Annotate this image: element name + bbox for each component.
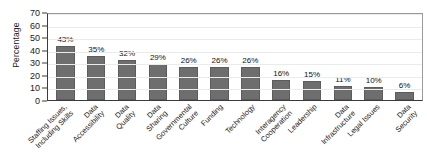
- y-axis-tickmark-20: [42, 75, 47, 76]
- bar-value-label: 10%: [366, 77, 382, 85]
- gridline-20: [48, 77, 422, 78]
- x-axis-label-line1: Funding: [199, 102, 225, 128]
- bar-value-label: 35%: [88, 46, 104, 54]
- bar-chart: Percentage 706050403020100 43%35%32%29%2…: [0, 0, 427, 166]
- bar[interactable]: [334, 86, 352, 100]
- y-axis-tick-60: 60: [30, 21, 40, 30]
- y-axis-tickmark-10: [42, 88, 47, 89]
- x-axis-category-label: Leadership: [287, 103, 319, 135]
- gridline-70: [48, 14, 422, 15]
- bar[interactable]: [303, 81, 321, 100]
- x-axis-category-label: Staffing Issues,Including Skills: [26, 103, 74, 151]
- bar[interactable]: [210, 67, 228, 100]
- bar[interactable]: [87, 56, 105, 100]
- gridline-60: [48, 27, 422, 28]
- y-axis-tick-40: 40: [30, 46, 40, 55]
- gridline-30: [48, 64, 422, 65]
- y-axis-tickmark-60: [42, 25, 47, 26]
- plot-area: 43%35%32%29%26%26%26%16%15%11%10%6%: [47, 13, 423, 101]
- y-axis-tick-50: 50: [30, 34, 40, 43]
- x-axis-label-line1: Leadership: [286, 102, 319, 135]
- x-axis-category-label: DataAccessibility: [65, 103, 106, 144]
- x-axis-category-label: Technology: [224, 103, 257, 136]
- bar[interactable]: [179, 67, 197, 100]
- bar[interactable]: [149, 64, 167, 100]
- y-axis-tick-70: 70: [30, 9, 40, 18]
- bar[interactable]: [395, 92, 413, 100]
- x-axis-label-line1: Technology: [223, 102, 256, 135]
- x-axis-category-label: DataInfrastructure: [313, 103, 356, 146]
- y-axis-tickmark-0: [42, 101, 47, 102]
- x-axis-category-label: DataQuality: [109, 103, 138, 132]
- y-axis-tickmark-40: [42, 50, 47, 51]
- gridline-10: [48, 89, 422, 90]
- y-axis-tickmark-30: [42, 63, 47, 64]
- bar-value-label: 29%: [150, 54, 166, 62]
- x-axis-category-label: DataSecurity: [388, 103, 419, 134]
- y-axis-title: Percentage: [11, 5, 21, 85]
- bar[interactable]: [241, 67, 259, 100]
- gridline-50: [48, 39, 422, 40]
- y-axis-tick-30: 30: [30, 59, 40, 68]
- gridline-40: [48, 52, 422, 53]
- x-axis-category-label: Funding: [200, 103, 225, 128]
- y-axis-tick-10: 10: [30, 84, 40, 93]
- x-axis-category-label: Legal Issues: [346, 103, 382, 139]
- y-axis-tickmark-70: [42, 13, 47, 14]
- y-axis-tick-labels: 706050403020100: [22, 13, 40, 101]
- bar-value-label: 15%: [304, 71, 320, 79]
- y-axis-tick-0: 0: [35, 97, 40, 106]
- x-axis-category-labels: Staffing Issues,Including SkillsDataAcce…: [47, 103, 423, 165]
- y-axis-tickmark-50: [42, 38, 47, 39]
- bar[interactable]: [118, 60, 136, 100]
- bar[interactable]: [56, 46, 74, 100]
- x-axis-category-label: InteragencyCooperation: [253, 103, 294, 144]
- y-axis-tick-20: 20: [30, 71, 40, 80]
